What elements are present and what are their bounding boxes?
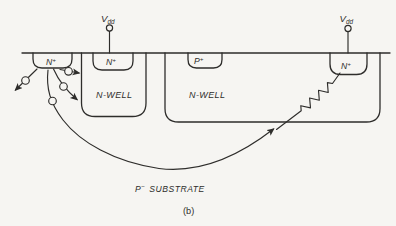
n-well-right-label: N-WELL bbox=[189, 90, 225, 100]
n-plus-left-label: N+ bbox=[46, 56, 56, 67]
diagram-canvas: Vdd Vdd N+ N+ P+ N+ N-WELL N-WELL P−SUBS… bbox=[0, 0, 396, 226]
vdd-left-terminal bbox=[106, 25, 112, 31]
electron-circle-1 bbox=[22, 77, 30, 85]
vdd-right-label: Vdd bbox=[340, 13, 354, 25]
n-plus-guard-label: N+ bbox=[106, 56, 116, 67]
well-resistor-zigzag bbox=[277, 73, 341, 130]
p-plus-label: P+ bbox=[194, 55, 204, 66]
vdd-right-terminal bbox=[345, 25, 351, 31]
substrate-label: P−SUBSTRATE bbox=[135, 183, 205, 194]
n-well-left-outline bbox=[82, 53, 147, 117]
electron-circle-3 bbox=[60, 83, 68, 91]
n-plus-right-label: N+ bbox=[341, 60, 351, 71]
vdd-left-label: Vdd bbox=[101, 13, 115, 25]
figure-caption: (b) bbox=[183, 206, 194, 216]
electron-circle-4 bbox=[49, 97, 57, 105]
electron-circle-2 bbox=[65, 68, 73, 76]
n-well-left-label: N-WELL bbox=[96, 90, 132, 100]
latchup-cross-section-figure: Vdd Vdd N+ N+ P+ N+ N-WELL N-WELL P−SUBS… bbox=[0, 0, 396, 226]
